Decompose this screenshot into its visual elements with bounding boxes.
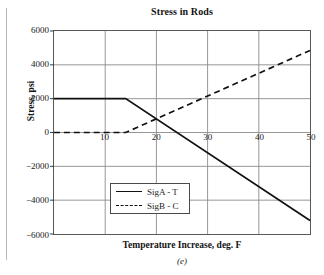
chart-title: Stress in Rods (53, 6, 311, 17)
legend-label-siga: SigA - T (147, 187, 178, 197)
series-line-sigb-c (54, 50, 310, 132)
y-tick-label: −4000 (9, 196, 49, 205)
x-tick-label: 20 (141, 132, 171, 142)
y-tick-label: −6000 (9, 231, 49, 240)
x-axis-title: Temperature Increase, deg. F (53, 240, 311, 250)
x-tick-label: 10 (90, 132, 120, 142)
y-tick-label: 0 (9, 128, 49, 137)
x-tick-label: 50 (296, 132, 324, 142)
figure-container: Stress in Rods Stress, psi 6000400020000… (0, 0, 324, 275)
legend-item-siga[interactable]: SigA - T (111, 185, 189, 199)
y-tick-label: 6000 (9, 26, 49, 35)
chart-legend[interactable]: SigA - T SigB - C (110, 183, 190, 214)
y-tick-label: 2000 (9, 94, 49, 103)
legend-item-sigb[interactable]: SigB - C (111, 199, 189, 213)
legend-label-sigb: SigB - C (147, 201, 179, 211)
y-tick-label: 4000 (9, 60, 49, 69)
y-axis-tick-labels: 6000400020000−2000−4000−6000 (5, 30, 49, 235)
legend-swatch-dashed-icon (116, 201, 142, 211)
x-tick-label: 40 (244, 132, 274, 142)
figure-caption: (e) (53, 256, 311, 266)
y-tick-label: −2000 (9, 162, 49, 171)
legend-swatch-solid-icon (116, 187, 142, 197)
x-tick-label: 30 (193, 132, 223, 142)
x-axis-tick-labels: 1020304050 (53, 132, 311, 146)
